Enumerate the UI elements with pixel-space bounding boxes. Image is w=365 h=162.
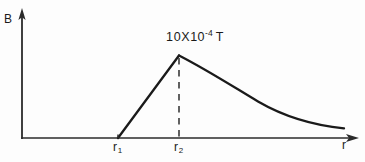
peak-unit: T bbox=[216, 30, 224, 44]
rising-linear-segment bbox=[118, 56, 179, 139]
tick-label-r1-subscript: 1 bbox=[118, 146, 123, 155]
peak-multiplier: X10 bbox=[181, 30, 205, 44]
tick-label-r2-base: r bbox=[174, 140, 178, 154]
magnetic-field-figure: B r 10X10-4T r1 r2 bbox=[0, 0, 365, 162]
tick-label-r1: r1 bbox=[113, 141, 122, 153]
decay-curve-segment bbox=[179, 56, 344, 129]
peak-coefficient: 10 bbox=[166, 30, 181, 44]
tick-label-r2: r2 bbox=[174, 141, 183, 153]
peak-value-annotation: 10X10-4T bbox=[166, 29, 224, 44]
peak-exponent: -4 bbox=[205, 28, 213, 38]
y-axis-label: B bbox=[4, 13, 12, 25]
tick-label-r2-subscript: 2 bbox=[179, 146, 184, 155]
plot-area bbox=[0, 0, 365, 162]
x-axis-label: r bbox=[342, 139, 346, 151]
tick-label-r1-base: r bbox=[113, 140, 117, 154]
